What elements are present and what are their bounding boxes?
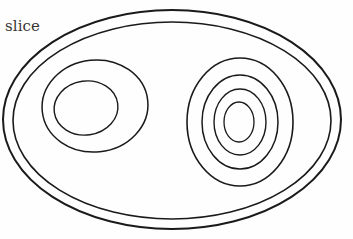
slice-label: slice bbox=[5, 19, 40, 34]
canvas-background bbox=[0, 0, 353, 239]
line-drawing bbox=[0, 0, 353, 239]
drawing-canvas: slice bbox=[0, 0, 353, 239]
